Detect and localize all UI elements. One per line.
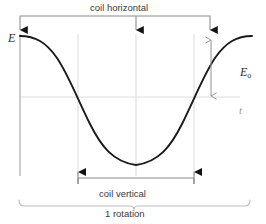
coil-horizontal-bracket xyxy=(20,16,210,30)
emf-axis-label: E xyxy=(8,32,15,44)
coil-vertical-label: coil vertical xyxy=(99,189,146,199)
gridlines xyxy=(78,34,194,176)
peak-emf-subscript: o xyxy=(247,71,251,80)
time-axis-label: t xyxy=(239,105,242,116)
one-rotation-label: 1 rotation xyxy=(105,209,145,219)
coil-horizontal-label: coil horizontal xyxy=(90,3,148,13)
emf-rotation-diagram: E Eo t coil horizontal coil vertical 1 r… xyxy=(0,0,266,224)
peak-emf-label: Eo xyxy=(240,66,251,78)
